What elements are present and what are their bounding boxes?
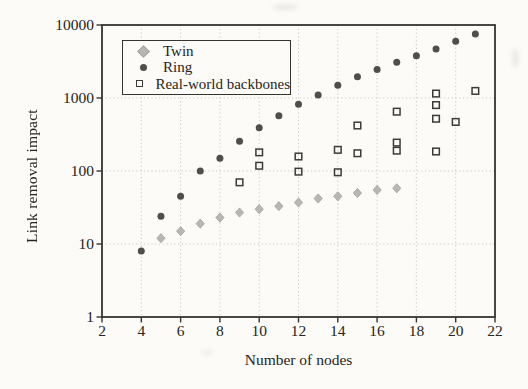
ring-point <box>216 155 223 162</box>
twin-point <box>235 208 243 217</box>
backbone-point <box>433 115 440 122</box>
legend-label-twin: Twin <box>163 43 194 59</box>
x-tick-label: 4 <box>137 322 145 339</box>
legend-entry-backbones: Real-world backbones <box>123 76 290 92</box>
backbone-square-icon <box>136 80 143 87</box>
twin-point <box>373 185 381 194</box>
backbone-point <box>472 88 479 95</box>
x-tick-label: 20 <box>448 322 464 339</box>
ring-point <box>393 59 400 66</box>
backbone-point <box>433 90 440 97</box>
backbone-point <box>236 179 243 186</box>
ring-circle-icon <box>140 64 147 71</box>
scan-smudge <box>512 48 519 68</box>
scan-smudge <box>200 350 214 355</box>
twin-point <box>275 202 283 211</box>
x-tick-label: 6 <box>177 322 185 339</box>
ring-point <box>295 101 302 108</box>
y-axis-title: Link removal impact <box>21 88 43 264</box>
twin-point <box>353 188 361 197</box>
ring-point <box>256 124 263 131</box>
x-tick-label: 16 <box>369 322 385 339</box>
ring-point <box>374 66 381 73</box>
y-tick-label: 100 <box>71 162 95 179</box>
twin-point <box>393 184 401 193</box>
y-tick-label: 10 <box>79 235 95 252</box>
twin-point <box>196 219 204 228</box>
ring-point <box>138 248 145 255</box>
x-tick-label: 8 <box>216 322 224 339</box>
backbone-point <box>393 147 400 154</box>
x-tick-label: 2 <box>98 322 106 339</box>
twin-point <box>294 198 302 207</box>
x-tick-label: 14 <box>330 322 346 339</box>
legend-entry-ring: Ring <box>123 59 290 75</box>
x-tick-label: 10 <box>251 322 267 339</box>
ring-point <box>157 213 164 220</box>
ring-point <box>472 31 479 38</box>
legend-entry-twin: Twin <box>123 43 290 59</box>
ring-point <box>275 112 282 119</box>
chart-figure: 246810121416182022110100100010000 Link r… <box>0 0 528 389</box>
twin-point <box>255 205 263 214</box>
ring-point <box>452 38 459 45</box>
backbone-point <box>393 108 400 115</box>
ring-point <box>177 193 184 200</box>
y-tick-label: 10000 <box>55 16 94 33</box>
backbone-point <box>433 148 440 155</box>
ring-point <box>433 45 440 52</box>
backbone-point <box>393 139 400 146</box>
ring-point <box>334 82 341 89</box>
backbone-point <box>354 150 361 157</box>
x-axis-title: Number of nodes <box>102 351 495 369</box>
ring-point <box>315 91 322 98</box>
twin-point <box>177 227 185 236</box>
ring-point <box>413 52 420 59</box>
x-tick-label: 12 <box>291 322 307 339</box>
scan-smudge <box>272 4 298 10</box>
twin-point <box>216 213 224 222</box>
x-tick-label: 22 <box>487 322 503 339</box>
backbone-point <box>433 102 440 109</box>
twin-point <box>157 234 165 243</box>
ring-point <box>236 138 243 145</box>
legend-label-backbones: Real-world backbones <box>155 76 290 92</box>
ring-point <box>197 168 204 175</box>
legend-box: Twin Ring Real-world backbones <box>122 40 291 95</box>
backbone-point <box>354 122 361 129</box>
twin-diamond-icon <box>137 45 150 58</box>
legend-label-ring: Ring <box>163 59 192 75</box>
y-tick-label: 1000 <box>63 89 94 106</box>
x-tick-label: 18 <box>409 322 425 339</box>
ring-point <box>354 73 361 80</box>
twin-point <box>334 192 342 201</box>
y-tick-label: 1 <box>86 308 94 325</box>
twin-point <box>314 194 322 203</box>
